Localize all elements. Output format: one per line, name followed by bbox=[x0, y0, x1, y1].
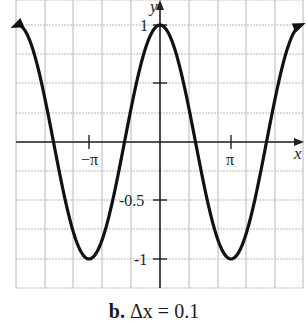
curve-left-arrow-icon bbox=[11, 18, 25, 28]
caption-label: b. bbox=[109, 300, 125, 322]
tick-label-neg-one: -1 bbox=[134, 251, 147, 268]
x-axis-label: x bbox=[293, 144, 302, 163]
tick-label-neg-pi: −π bbox=[81, 151, 98, 168]
y-axis-label: y bbox=[148, 0, 158, 16]
figure-caption: b. Δx = 0.1 bbox=[0, 300, 308, 323]
cosine-plot: y x −π π 1 -0.5 -1 bbox=[0, 0, 308, 300]
caption-text: Δx = 0.1 bbox=[130, 300, 199, 322]
tick-label-neg-half: -0.5 bbox=[119, 192, 144, 209]
tick-label-one: 1 bbox=[140, 17, 148, 34]
tick-label-pi: π bbox=[226, 151, 234, 168]
axes bbox=[16, 0, 304, 288]
